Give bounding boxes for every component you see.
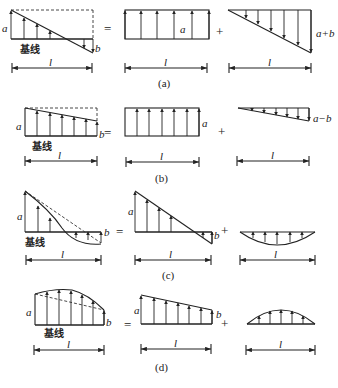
baseline-label: 基线 (43, 327, 64, 339)
panel-b-middle-diagram: a l (b) (125, 108, 208, 185)
panel-d-middle-diagram: a b l (d) (134, 295, 222, 374)
caption-b: (b) (155, 172, 168, 185)
panel-a-middle-diagram: a l (a) (125, 10, 209, 90)
length-label: l (271, 149, 274, 161)
panel-a-left-diagram: a b 基线 l (2, 10, 101, 73)
panel-c-middle-diagram: a b l (c) (128, 191, 220, 282)
label-b: b (106, 316, 112, 328)
panel-c-left-diagram: a b 基线 l (17, 191, 110, 265)
equals-sign: = (124, 317, 131, 332)
length-label: l (58, 149, 61, 161)
label-a: a (128, 205, 134, 217)
panel-d-left-diagram: a b 基线 l (26, 290, 112, 356)
panel-c-right-diagram: l (240, 232, 315, 265)
superposition-diagram: a b 基线 l = a l (a) + (0, 0, 338, 388)
label-a: a (2, 22, 8, 34)
plus-sign: + (218, 124, 225, 139)
equals-sign: = (116, 224, 123, 239)
panel-c: a b 基线 l = a b l (c) + (17, 191, 315, 282)
plus-sign: + (216, 24, 223, 39)
label-b: b (104, 226, 110, 238)
length-label: l (169, 248, 172, 260)
label-a-minus-b: a−b (313, 112, 332, 124)
label-a: a (134, 304, 140, 316)
label-a: a (26, 306, 32, 318)
equals-sign: = (104, 125, 111, 140)
plus-sign: + (221, 316, 228, 331)
length-label: l (160, 150, 163, 162)
panel-b: a b 基线 l = a l (b) + (16, 108, 332, 185)
label-b: b (95, 42, 101, 54)
label-a: a (17, 210, 23, 222)
baseline-label: 基线 (24, 236, 45, 248)
label-a: a (16, 120, 22, 132)
panel-d-right-diagram: l (246, 310, 315, 355)
baseline-label: 基线 (31, 140, 52, 152)
plus-sign: + (221, 223, 228, 238)
panel-a: a b 基线 l = a l (a) + (2, 10, 335, 90)
panel-a-right-diagram: a+b l (228, 10, 335, 73)
length-label: l (268, 56, 271, 68)
panel-b-right-diagram: a−b l (237, 108, 332, 166)
label-b: b (214, 229, 220, 241)
length-label: l (67, 338, 70, 350)
length-label: l (174, 337, 177, 349)
caption-d: (d) (155, 361, 168, 374)
panel-b-left-diagram: a b 基线 l (16, 108, 105, 166)
caption-a: (a) (158, 77, 171, 90)
length-label: l (279, 338, 282, 350)
label-a-plus-b: a+b (316, 27, 335, 39)
length-label: l (61, 248, 64, 260)
panel-d: a b 基线 l = a b l (d) + (26, 290, 315, 375)
length-label: l (274, 248, 277, 260)
label-a: a (202, 117, 208, 129)
label-a: a (180, 23, 186, 35)
baseline-label: 基线 (19, 43, 40, 55)
equals-sign: = (104, 21, 111, 36)
caption-c: (c) (162, 269, 175, 282)
length-label: l (49, 56, 52, 68)
length-label: l (164, 56, 167, 68)
